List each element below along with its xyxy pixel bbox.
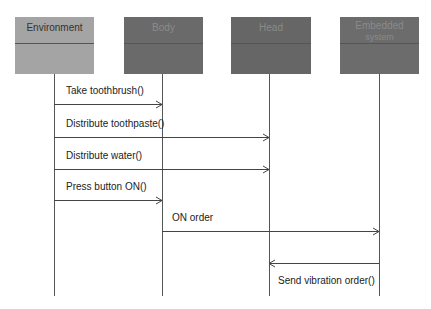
message-label-press-button-on: Press button ON() xyxy=(66,181,147,192)
arrow-on-order xyxy=(162,228,379,235)
arrow-send-vibration-order xyxy=(269,260,379,267)
message-label-on-order: ON order xyxy=(172,212,213,223)
arrow-take-toothbrush xyxy=(54,101,162,108)
arrow-distribute-toothpaste xyxy=(54,134,269,141)
arrow-distribute-water xyxy=(54,166,269,173)
message-label-distribute-water: Distribute water() xyxy=(66,150,142,161)
arrow-press-button-on xyxy=(54,197,162,204)
message-label-send-vibration-order: Send vibration order() xyxy=(278,275,375,286)
message-label-distribute-toothpaste: Distribute toothpaste() xyxy=(66,118,164,129)
message-label-take-toothbrush: Take toothbrush() xyxy=(66,85,144,96)
message-arrows xyxy=(0,0,431,309)
